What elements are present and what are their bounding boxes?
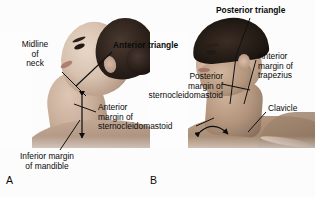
- label-posterior-triangle: Posterior triangle: [216, 6, 285, 16]
- label-anterior-triangle: Anterior triangle: [113, 41, 178, 51]
- arrow-posterior-triangle-span: [200, 126, 228, 134]
- label-midline-of-neck: Midline of neck: [6, 40, 64, 69]
- label-clavicle: Clavicle: [268, 104, 297, 114]
- leader-posterior-triangle-2: [230, 56, 236, 104]
- panel-letter-b: B: [150, 174, 157, 186]
- leader-anterior-margin-of-trapezius: [244, 60, 256, 104]
- leader-anterior-triangle: [76, 52, 112, 86]
- leader-anterior-margin-scm-a: [74, 104, 96, 112]
- leader-anterior-margin-scm-b: [196, 118, 214, 126]
- label-anterior-margin-of-trapezius: Anterior margin of trapezius: [258, 52, 314, 81]
- leader-inferior-margin-of-mandible: [60, 120, 80, 150]
- leader-midline-of-neck: [62, 72, 86, 96]
- leader-clavicle: [248, 112, 266, 132]
- panel-letter-a: A: [6, 174, 13, 186]
- label-inferior-margin-of-mandible: Inferior margin of mandible: [4, 152, 90, 171]
- label-anterior-margin-of-sternocleidomastoid: Anterior margin of sternocleidomastoid: [98, 103, 198, 132]
- label-posterior-margin-of-sternocleidomastoid: Posterior margin of sternocleidomastoid: [140, 72, 223, 101]
- anatomy-figure: Midline of neck Inferior margin of mandi…: [0, 0, 315, 197]
- leader-posterior-triangle: [236, 18, 250, 56]
- leader-posterior-margin-scm: [222, 84, 250, 90]
